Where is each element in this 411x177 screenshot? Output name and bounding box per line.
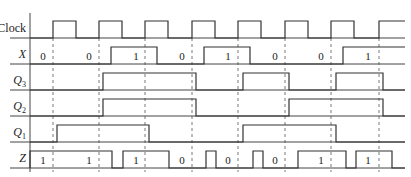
value-x: 1 [133,50,139,62]
value-z: 0 [272,154,278,166]
waveform-q3 [30,73,405,90]
value-x: 0 [318,50,324,62]
signal-label-clock: Clock [0,21,26,35]
value-x: 0 [86,50,92,62]
signal-label-z: Z [19,151,26,165]
value-z: 1 [40,154,46,166]
waveform-q2 [30,99,405,116]
value-x: 0 [272,50,278,62]
signal-label-q3: Q3 [13,73,26,89]
value-z: 1 [133,154,139,166]
value-z: 1 [318,154,324,166]
waveforms [10,21,405,168]
timing-diagram: ClockXQ3Q2Q1Z 0010100111100011 [0,0,411,177]
value-x: 0 [179,50,185,62]
value-x: 1 [225,50,231,62]
value-z: 1 [86,154,92,166]
signal-values: 0010100111100011 [40,50,371,166]
signal-label-q1: Q1 [13,125,26,141]
value-z: 0 [179,154,185,166]
value-x: 0 [40,50,46,62]
signal-label-x: X [18,47,27,61]
value-x: 1 [365,50,371,62]
waveform-q1 [30,125,405,142]
signal-label-q2: Q2 [13,99,26,115]
value-z: 0 [225,154,231,166]
signal-labels: ClockXQ3Q2Q1Z [0,21,27,165]
value-z: 1 [365,154,371,166]
waveform-clock [30,21,405,38]
